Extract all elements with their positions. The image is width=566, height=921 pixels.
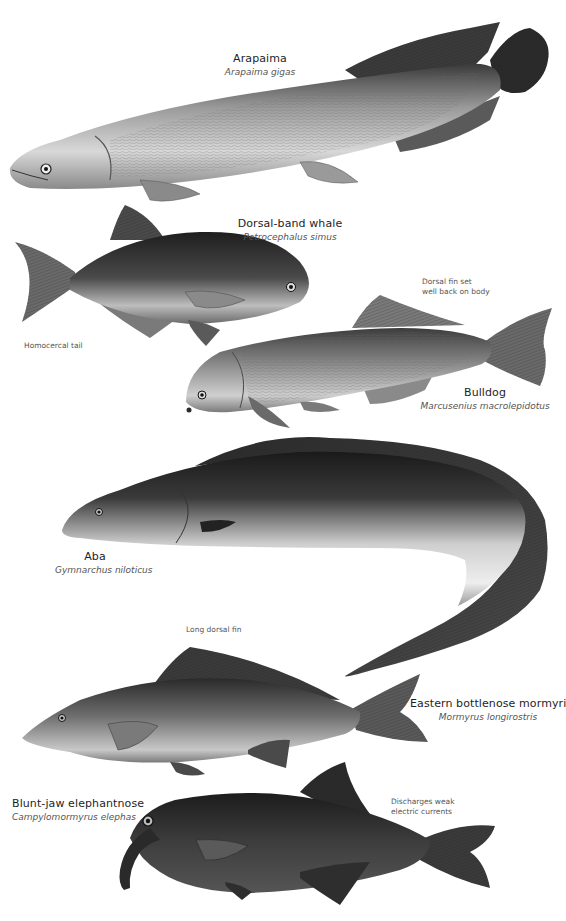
common-name: Blunt-jaw elephantnose bbox=[12, 797, 132, 811]
fish-illustration-plate: Arapaima Arapaima gigas Dorsal-band whal… bbox=[0, 0, 566, 921]
species-label-aba: Aba Gymnarchus niloticus bbox=[55, 550, 135, 576]
common-name: Eastern bottlenose mormyrid bbox=[410, 697, 566, 711]
species-label-dorsal-band-whale: Dorsal-band whale Petrocephalus simus bbox=[220, 217, 360, 243]
scientific-name: Campylomormyrus elephas bbox=[12, 811, 132, 823]
arapaima-illustration bbox=[10, 22, 549, 201]
dorsal-band-whale-body bbox=[70, 232, 309, 324]
common-name: Bulldog bbox=[410, 386, 560, 400]
species-label-arapaima: Arapaima Arapaima gigas bbox=[190, 52, 330, 78]
common-name: Aba bbox=[55, 550, 135, 564]
species-label-bulldog: Bulldog Marcusenius macrolepidotus bbox=[410, 386, 560, 412]
scientific-name: Marcusenius macrolepidotus bbox=[410, 400, 560, 412]
blunt-jaw-elephantnose-illustration bbox=[120, 762, 496, 905]
eastern-bottlenose-mormyrid-pelvic-fin bbox=[170, 762, 205, 776]
note-homocercal-tail: Homocercal tail bbox=[24, 341, 83, 351]
note-electric-currents: Discharges weak electric currents bbox=[391, 797, 455, 817]
scientific-name: Petrocephalus simus bbox=[220, 231, 360, 243]
bulldog-pelvic-fin bbox=[300, 402, 340, 412]
common-name: Dorsal-band whale bbox=[220, 217, 360, 231]
note-dorsal-fin-set-back: Dorsal fin set well back on body bbox=[422, 277, 490, 297]
species-label-eastern-bottlenose-mormyrid: Eastern bottlenose mormyrid Mormyrus lon… bbox=[410, 697, 566, 723]
note-long-dorsal-fin: Long dorsal fin bbox=[186, 625, 241, 635]
blunt-jaw-elephantnose-body bbox=[130, 793, 430, 893]
common-name: Arapaima bbox=[190, 52, 330, 66]
scientific-name: Arapaima gigas bbox=[190, 66, 330, 78]
aba-body bbox=[62, 452, 525, 606]
scientific-name: Gymnarchus niloticus bbox=[55, 564, 135, 576]
species-label-blunt-jaw-elephantnose: Blunt-jaw elephantnose Campylomormyrus e… bbox=[12, 797, 132, 823]
dorsal-band-whale-pelvic-fin bbox=[188, 320, 220, 346]
scientific-name: Mormyrus longirostris bbox=[410, 711, 566, 723]
fish-illustrations bbox=[0, 0, 566, 921]
arapaima-pelvic-fin bbox=[300, 161, 358, 183]
